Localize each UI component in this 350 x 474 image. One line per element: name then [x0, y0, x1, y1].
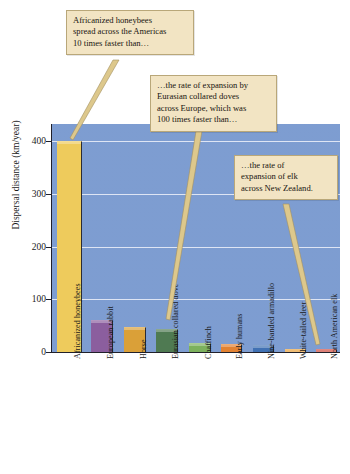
callout-elk-line-3: across New Zealand.	[241, 183, 331, 194]
gridline-100	[52, 299, 340, 300]
callout-honeybees: Africanized honeybees spread across the …	[66, 10, 194, 55]
y-axis-title: Dispersal distance (km/year)	[11, 75, 21, 275]
x-axis-line	[51, 352, 340, 353]
x-axis-label-nine-banded-armadillo: Nine-banded armadillo	[267, 283, 276, 359]
x-axis-label-white-tailed-deer: White-tailed deer	[299, 302, 308, 359]
y-axis-line	[51, 124, 52, 353]
callout-elk-line-1: …the rate of	[241, 160, 331, 171]
x-axis-label-horse: Horse	[139, 339, 148, 359]
bar-highlight	[124, 328, 145, 330]
callout-elk: …the rate of expansion of elk across New…	[234, 155, 338, 200]
x-axis-label-north-american-elk: North American elk	[330, 294, 339, 359]
callout-doves-line-3: across Europe, which was	[157, 103, 270, 114]
y-tick-label-400: 400	[32, 136, 46, 146]
y-tick-label-200: 200	[32, 242, 46, 252]
gridline-200	[52, 247, 340, 248]
x-axis-label-early-humans: Early humans	[235, 314, 244, 359]
y-tick-label-300: 300	[32, 189, 46, 199]
gridline-400	[52, 141, 340, 142]
callout-doves-line-4: 100 times faster than…	[157, 114, 270, 125]
y-tick-label-100: 100	[32, 294, 46, 304]
callout-doves: …the rate of expansion by Eurasian colla…	[150, 75, 277, 132]
x-axis-label-european-rabbit: European rabbit	[106, 306, 115, 359]
y-tick-label-0: 0	[41, 347, 46, 357]
callout-honeybees-line-3: 10 times faster than…	[73, 38, 187, 49]
callout-honeybees-line-2: spread across the Americas	[73, 26, 187, 37]
bar-highlight	[57, 142, 81, 144]
callout-honeybees-line-1: Africanized honeybees	[73, 15, 187, 26]
x-axis-label-africanized-honeybees: Africanized honeybees	[73, 283, 82, 359]
callout-doves-line-1: …the rate of expansion by	[157, 80, 270, 91]
chart-figure: Dispersal distance (km/year) 400 300 200…	[0, 0, 350, 474]
x-axis-label-chaffinch: Chaffinch	[204, 326, 213, 359]
callout-elk-line-2: expansion of elk	[241, 171, 331, 182]
callout-doves-line-2: Eurasian collared doves	[157, 91, 270, 102]
x-axis-label-eurasian-collared-dove: Eurasian collared dove	[171, 283, 180, 359]
